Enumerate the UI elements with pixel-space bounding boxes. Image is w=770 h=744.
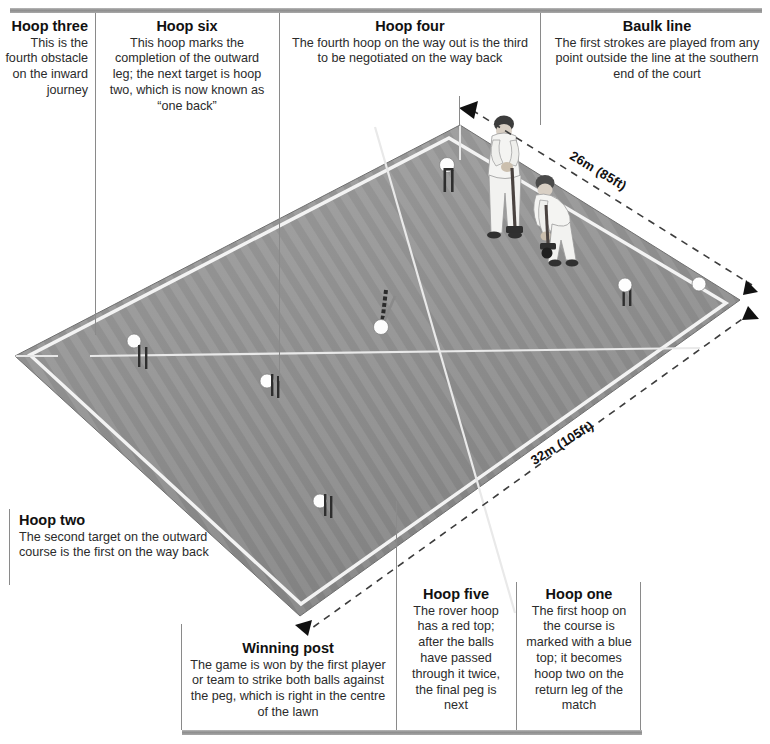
callout-hoop-one: Hoop one The first hoop on the course is… (524, 586, 634, 714)
callout-hoop-four: Hoop four The fourth hoop on the way out… (288, 18, 532, 67)
callout-winning-post: Winning post The game is won by the firs… (186, 640, 390, 721)
callout-text: The second target on the outward course … (19, 530, 215, 562)
divider-top-4 (459, 96, 460, 126)
callout-baulk-line: Baulk line The first strokes are played … (549, 18, 765, 83)
diagram-canvas: Hoop three This is the fourth obstacle o… (0, 0, 770, 744)
top-rule (10, 8, 762, 13)
callout-text: The fourth hoop on the way out is the th… (288, 36, 532, 68)
callout-hoop-six: Hoop six This hoop marks the completion … (103, 18, 271, 115)
bottom-rule (182, 730, 642, 735)
callout-text: The rover hoop has a red top; after the … (404, 604, 508, 715)
callout-title: Hoop four (288, 18, 532, 35)
divider-bottom-2 (396, 501, 397, 730)
leader-hoop-two (9, 509, 10, 585)
callout-title: Hoop three (0, 18, 88, 35)
callout-hoop-two: Hoop two The second target on the outwar… (19, 512, 215, 561)
callout-text: This is the fourth obstacle on the inwar… (0, 36, 88, 99)
callout-title: Winning post (186, 640, 390, 657)
callout-text: This hoop marks the completion of the ou… (103, 36, 271, 115)
callout-text: The first strokes are played from any po… (549, 36, 765, 83)
divider-bottom-3 (516, 582, 517, 730)
divider-bottom-1 (181, 624, 182, 730)
hoop-marker-5 (618, 278, 632, 292)
callout-text: The game is won by the first player or t… (186, 658, 390, 721)
callout-title: Hoop two (19, 512, 215, 529)
callout-text: The first hoop on the course is marked w… (524, 604, 634, 715)
callout-hoop-three: Hoop three This is the fourth obstacle o… (0, 18, 88, 99)
callout-hoop-five: Hoop five The rover hoop has a red top; … (404, 586, 508, 714)
divider-top-1 (95, 13, 96, 335)
divider-bottom-4 (640, 582, 641, 730)
callout-title: Hoop five (404, 586, 508, 603)
divider-top-3 (540, 13, 541, 125)
divider-top-2 (279, 13, 280, 381)
croquet-ball (542, 248, 553, 259)
callout-title: Baulk line (549, 18, 765, 35)
callout-title: Hoop six (103, 18, 271, 35)
callout-title: Hoop one (524, 586, 634, 603)
